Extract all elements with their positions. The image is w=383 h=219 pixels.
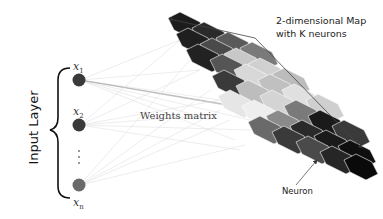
weights-matrix-label: Weights matrix <box>140 110 217 121</box>
input-label-xn: xn <box>73 196 84 211</box>
map-title-line2: with K neurons <box>276 27 366 40</box>
neuron-pointer-arrow <box>296 160 317 185</box>
som-diagram: Input Layer x1 x2 xn Weights matrix 2-di… <box>0 0 383 219</box>
input-layer-brace <box>50 68 70 198</box>
input-label-x2: x2 <box>73 105 84 120</box>
input-node-x2 <box>73 119 86 132</box>
map-title: 2-dimensional Map with K neurons <box>276 14 366 40</box>
neuron-label: Neuron <box>282 186 313 196</box>
input-layer-label: Input Layer <box>26 83 41 173</box>
input-node-x1 <box>73 74 86 87</box>
map-title-line1: 2-dimensional Map <box>276 14 366 27</box>
input-label-x1: x1 <box>73 60 84 75</box>
ellipsis-dots <box>78 150 80 164</box>
input-node-xn <box>73 179 86 192</box>
